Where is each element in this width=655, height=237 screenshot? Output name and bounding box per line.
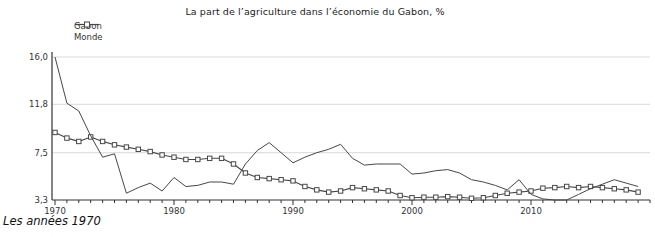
y-tick-label: 16,0 bbox=[29, 52, 48, 62]
monde-square-marker bbox=[53, 130, 57, 134]
monde-square-marker bbox=[100, 139, 104, 143]
monde-square-marker bbox=[600, 185, 604, 189]
monde-square-marker bbox=[208, 156, 212, 160]
gabon-line bbox=[55, 57, 638, 200]
monde-square-marker bbox=[231, 162, 235, 166]
monde-square-marker bbox=[505, 191, 509, 195]
monde-square-marker bbox=[172, 155, 176, 159]
monde-line bbox=[55, 132, 638, 198]
monde-square-marker bbox=[136, 147, 140, 151]
monde-square-marker bbox=[457, 195, 461, 199]
monde-square-marker bbox=[338, 189, 342, 193]
monde-square-marker bbox=[636, 190, 640, 194]
monde-square-marker bbox=[386, 189, 390, 193]
monde-square-marker bbox=[255, 175, 259, 179]
monde-square-marker bbox=[398, 193, 402, 197]
monde-square-marker bbox=[315, 188, 319, 192]
x-tick-label: 1990 bbox=[282, 206, 304, 216]
monde-square-marker bbox=[291, 179, 295, 183]
monde-square-marker bbox=[243, 171, 247, 175]
monde-square-marker bbox=[576, 185, 580, 189]
x-tick-label: 2000 bbox=[401, 206, 423, 216]
monde-square-marker bbox=[517, 190, 521, 194]
monde-square-marker bbox=[446, 194, 450, 198]
monde-square-marker bbox=[112, 143, 116, 147]
monde-square-marker bbox=[219, 156, 223, 160]
y-tick-label: 11,8 bbox=[29, 99, 48, 109]
monde-square-marker bbox=[327, 190, 331, 194]
monde-square-marker bbox=[422, 195, 426, 199]
monde-square-marker bbox=[410, 196, 414, 200]
monde-square-marker bbox=[196, 157, 200, 161]
monde-square-marker bbox=[434, 195, 438, 199]
monde-square-marker bbox=[267, 176, 271, 180]
monde-square-marker bbox=[160, 153, 164, 157]
monde-square-marker bbox=[612, 187, 616, 191]
monde-square-marker bbox=[184, 157, 188, 161]
monde-square-marker bbox=[148, 149, 152, 153]
monde-square-marker bbox=[541, 186, 545, 190]
y-tick-label: 7,5 bbox=[34, 148, 48, 158]
monde-square-marker bbox=[77, 139, 81, 143]
x-tick-label: 2010 bbox=[520, 206, 542, 216]
monde-square-marker bbox=[124, 145, 128, 149]
monde-square-marker bbox=[493, 193, 497, 197]
chart-root: La part de l’agriculture dans l’économie… bbox=[0, 0, 655, 237]
monde-square-marker bbox=[362, 187, 366, 191]
monde-square-marker bbox=[481, 196, 485, 200]
monde-square-marker bbox=[303, 184, 307, 188]
plot-area: 16,011,87,53,319701980199020002010 bbox=[0, 0, 655, 237]
monde-square-marker bbox=[624, 188, 628, 192]
monde-square-marker bbox=[374, 188, 378, 192]
monde-square-marker bbox=[279, 178, 283, 182]
caption-text: Les années 1970 bbox=[3, 214, 101, 228]
monde-square-marker bbox=[469, 196, 473, 200]
monde-square-marker bbox=[553, 185, 557, 189]
monde-square-marker bbox=[65, 136, 69, 140]
monde-square-marker bbox=[350, 185, 354, 189]
y-tick-label: 3,3 bbox=[34, 195, 48, 205]
x-tick-label: 1980 bbox=[163, 206, 185, 216]
monde-square-marker bbox=[565, 184, 569, 188]
